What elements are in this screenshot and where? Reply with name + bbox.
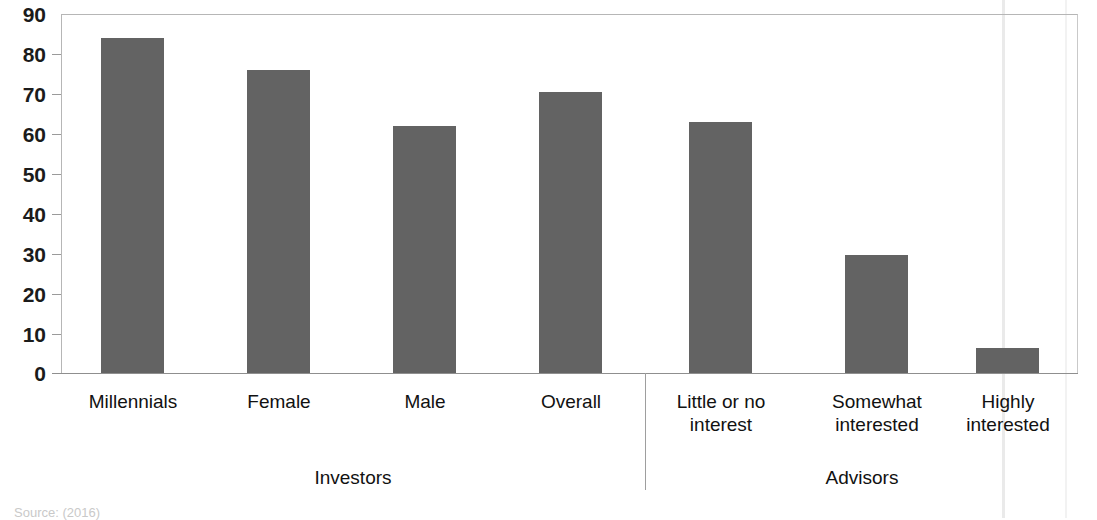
x-label-line1: Somewhat bbox=[806, 390, 948, 413]
x-label-little-or-no-interest: Little or no interest bbox=[650, 390, 792, 436]
x-label-somewhat-interested: Somewhat interested bbox=[806, 390, 948, 436]
x-label-line1: Millennials bbox=[62, 390, 204, 413]
bar-highly-interested[interactable] bbox=[976, 348, 1039, 373]
bar-somewhat-interested[interactable] bbox=[845, 255, 908, 373]
x-label-line1: Highly bbox=[937, 390, 1079, 413]
x-label-millennials: Millennials bbox=[62, 390, 204, 413]
source-note: Source: (2016) bbox=[14, 505, 100, 520]
x-label-female: Female bbox=[208, 390, 350, 413]
bar-male[interactable] bbox=[393, 126, 456, 373]
group-label-investors: Investors bbox=[61, 467, 645, 489]
x-label-line2: interest bbox=[650, 413, 792, 436]
group-label-advisors: Advisors bbox=[646, 467, 1078, 489]
x-label-line2: interested bbox=[806, 413, 948, 436]
x-label-highly-interested: Highly interested bbox=[937, 390, 1079, 436]
x-label-line1: Male bbox=[354, 390, 496, 413]
x-label-overall: Overall bbox=[500, 390, 642, 413]
x-label-line2: interested bbox=[937, 413, 1079, 436]
x-label-line1: Overall bbox=[500, 390, 642, 413]
bar-overall[interactable] bbox=[539, 92, 602, 373]
bar-little-or-no-interest[interactable] bbox=[689, 122, 752, 373]
x-label-line1: Female bbox=[208, 390, 350, 413]
bar-millennials[interactable] bbox=[101, 38, 164, 373]
x-label-line1: Little or no bbox=[650, 390, 792, 413]
bar-female[interactable] bbox=[247, 70, 310, 373]
x-label-male: Male bbox=[354, 390, 496, 413]
